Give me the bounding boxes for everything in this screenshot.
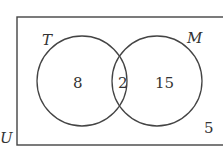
outside-value: 5 [204,119,214,137]
venn-diagram: T M U 8 2 15 5 [0,0,223,150]
intersection-value: 2 [118,74,128,92]
set-t-label: T [42,31,53,49]
universe-label: U [0,129,14,147]
m-only-value: 15 [155,74,174,92]
t-only-value: 8 [73,74,83,92]
set-m-label: M [186,29,203,47]
